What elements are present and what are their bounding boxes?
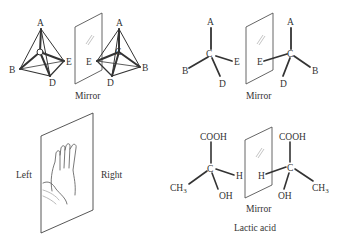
cooh-label: COOH — [279, 132, 306, 142]
cooh-label: COOH — [200, 132, 227, 142]
tetrahedra-panel: A B E D E Mirror A C B D — [9, 13, 148, 101]
label-B: B — [142, 63, 148, 73]
mirror-plane — [245, 127, 272, 198]
carbon-label: C — [207, 164, 213, 174]
methyl-label: CH3 — [312, 183, 329, 195]
label-C: C — [206, 49, 212, 59]
label-D: D — [219, 79, 226, 89]
label-A: A — [116, 18, 123, 28]
mirror-label: Mirror — [246, 204, 272, 214]
left-label: Left — [16, 170, 32, 180]
label-D: D — [107, 78, 114, 88]
label-A: A — [207, 17, 214, 27]
label-E: E — [234, 57, 240, 67]
label-E: E — [66, 57, 72, 67]
label-B: B — [182, 66, 188, 76]
mirror-plane — [246, 13, 273, 84]
methyl-label: CH3 — [170, 183, 187, 195]
lactic-acid-panel: COOH C CH3 H OH Mirror COOH C H CH3 OH L… — [170, 127, 329, 233]
hydroxyl-label: OH — [278, 191, 292, 201]
label-E: E — [257, 57, 263, 67]
hydroxyl-label: OH — [219, 191, 233, 201]
label-E-mirror: E — [86, 57, 92, 67]
carbon-label: C — [287, 163, 293, 173]
hydrogen-label: H — [258, 171, 265, 181]
label-A: A — [287, 17, 294, 27]
label-D: D — [49, 78, 56, 88]
label-D: D — [280, 79, 287, 89]
stick-panel: A C B E D Mirror A C E B D — [182, 13, 318, 101]
chirality-diagram: A B E D E Mirror A C B D — [0, 0, 340, 244]
label-B: B — [312, 66, 318, 76]
label-A: A — [37, 18, 44, 28]
hand-icon — [43, 144, 76, 204]
hands-panel: Left Right — [16, 113, 122, 233]
right-label: Right — [101, 170, 122, 180]
lactic-acid-caption: Lactic acid — [234, 223, 276, 233]
mirror-label: Mirror — [246, 91, 272, 101]
hydrogen-label: H — [236, 171, 243, 181]
mirror-plane — [75, 13, 102, 84]
label-C: C — [115, 47, 121, 57]
left-tetrahedron — [20, 29, 64, 76]
mirror-plane — [41, 113, 93, 233]
label-C: C — [287, 49, 293, 59]
mirror-label: Mirror — [75, 91, 101, 101]
label-B: B — [9, 65, 15, 75]
